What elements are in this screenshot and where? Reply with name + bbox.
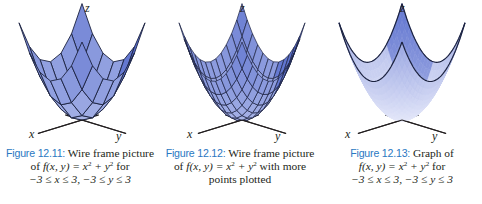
- caption-text: Graph of: [410, 147, 454, 159]
- caption-text: Wire frame picture: [65, 147, 154, 159]
- z-axis-label: z: [240, 2, 245, 14]
- figure-12-12: z x y Figure 12.12: Wire frame picture o…: [160, 0, 320, 204]
- caption-formula: of f(x, y) = x2 + y2 with more: [160, 160, 320, 173]
- caption-domain: −3 ≤ x ≤ 3, −3 ≤ y ≤ 3: [0, 173, 160, 186]
- figure-caption: Figure 12.11: Wire frame picture of f(x,…: [0, 147, 160, 186]
- figure-caption: Figure 12.13: Graph of f(x, y) = x2 + y2…: [322, 147, 482, 186]
- surface-mesh: [19, 4, 145, 120]
- figure-caption: Figure 12.12: Wire frame picture of f(x,…: [160, 147, 320, 186]
- caption-domain: −3 ≤ x ≤ 3, −3 ≤ y ≤ 3: [322, 173, 482, 186]
- y-axis-label: y: [275, 130, 280, 142]
- wireframe-fine-plot: [160, 0, 320, 145]
- x-axis-label: x: [187, 128, 192, 140]
- figure-number: Figure 12.11:: [6, 147, 65, 159]
- y-axis-label: y: [432, 130, 437, 142]
- caption-formula: of f(x, y) = x2 + y2 for: [0, 160, 160, 173]
- wireframe-coarse-plot: [0, 0, 160, 145]
- x-axis-label: x: [345, 128, 350, 140]
- surface-mesh: [179, 4, 305, 121]
- z-axis-label: z: [85, 2, 90, 14]
- caption-formula: f(x, y) = x2 + y2 for: [322, 160, 482, 173]
- figure-12-13: z x y Figure 12.13: Graph of f(x, y) = x…: [322, 0, 482, 204]
- figure-12-11: z x y Figure 12.11: Wire frame picture o…: [0, 0, 160, 204]
- y-axis-label: y: [116, 130, 121, 142]
- z-axis-label: z: [400, 2, 405, 14]
- figure-number: Figure 12.12:: [166, 147, 226, 159]
- surface-mesh: [339, 4, 465, 121]
- x-axis-label: x: [29, 128, 34, 140]
- caption-line3: points plotted: [160, 173, 320, 186]
- figure-number: Figure 12.13:: [350, 147, 410, 159]
- caption-text: Wire frame picture: [226, 147, 315, 159]
- smooth-surface-plot: [322, 0, 482, 145]
